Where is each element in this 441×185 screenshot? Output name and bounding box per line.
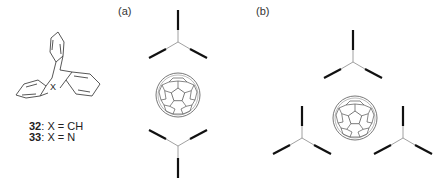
triptycene-left-b (273, 106, 331, 154)
panel-label-a: (a) (118, 5, 131, 17)
triptycene-structure (16, 32, 100, 98)
panel-b-diagram (273, 30, 432, 154)
bridgehead-atom-label: X (50, 82, 56, 92)
compound-formula: X = N (47, 131, 75, 143)
fullerene-b (333, 96, 377, 140)
compound-label-33: 33: X = N (29, 132, 75, 143)
fullerene-a (156, 73, 200, 117)
triptycene-top-b (324, 30, 382, 78)
figure-canvas: X (0, 0, 441, 185)
panel-label-b: (b) (256, 5, 269, 17)
triptycene-right-b (374, 106, 432, 154)
panel-a-diagram (149, 10, 207, 178)
triptycene-bottom-a (149, 130, 207, 178)
triptycene-top-a (149, 10, 207, 58)
compound-number: 33 (29, 131, 41, 143)
